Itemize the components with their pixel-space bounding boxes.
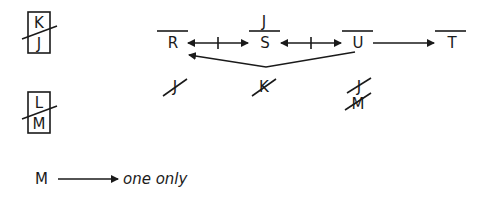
slot-label-u: U [353,34,364,52]
logic-diagram: K J L M J R S U T T --> J K J [0,0,492,200]
relation-s-u [281,37,341,49]
relation-r-s [188,37,248,49]
excluded-u-m: M [345,93,371,113]
excluded-s-k: K [252,78,276,96]
slot-s-assigned: J [261,13,266,31]
rule-box-k-j: K J [22,12,57,53]
rule-box-top: L [35,94,44,112]
rule-box-l-m: L M [22,92,57,133]
excluded-r-j: J [163,78,187,96]
excluded-u-j: J [347,78,371,96]
rule-box-top: K [34,14,45,32]
slot-label-t: T [446,34,457,52]
rule-box-bottom: M [33,115,46,133]
note-text: one only [123,170,189,188]
note-variable: M [35,170,48,188]
rule-box-bottom: J [36,35,41,53]
relation-u-r [189,52,355,67]
slot-label-s: S [260,34,270,52]
slot-label-r: R [168,34,178,52]
